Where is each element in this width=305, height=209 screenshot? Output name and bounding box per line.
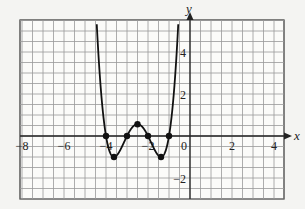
- x-tick-label: 0: [181, 139, 187, 153]
- x-tick-label: 2: [229, 139, 235, 153]
- plot-area: [20, 20, 284, 199]
- data-point: [158, 154, 164, 160]
- y-tick-label: −2: [173, 172, 186, 186]
- data-point: [103, 133, 109, 139]
- x-axis-arrow-icon: [284, 133, 292, 140]
- x-axis-label: x: [293, 128, 300, 143]
- y-tick-label: 2: [180, 88, 186, 102]
- data-point: [166, 133, 172, 139]
- y-axis-label: y: [184, 1, 192, 16]
- data-point: [111, 154, 117, 160]
- x-tick-label: −8: [16, 139, 29, 153]
- data-point: [145, 133, 151, 139]
- y-tick-label: 4: [180, 46, 186, 60]
- x-tick-label: 4: [271, 139, 277, 153]
- x-tick-label: −4: [100, 139, 113, 153]
- x-tick-label: −6: [58, 139, 71, 153]
- data-point: [134, 121, 140, 127]
- chart: x y −8 −6 −4 −2 0 2 4 4 2 −2: [0, 0, 305, 209]
- data-point: [124, 133, 130, 139]
